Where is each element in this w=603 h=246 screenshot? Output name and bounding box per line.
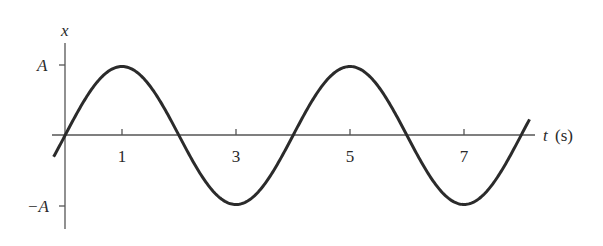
x-tick-label-7: 7 — [460, 147, 469, 166]
sine-chart: x A −A 1 3 5 7 t (s) — [0, 0, 603, 246]
x-axis-label: t (s) — [543, 126, 573, 145]
x-tick-label-1: 1 — [118, 147, 127, 166]
x-tick-label-5: 5 — [346, 147, 355, 166]
y-tick-label-a: A — [36, 56, 48, 75]
x-tick-label-3: 3 — [232, 147, 241, 166]
y-axis-label: x — [60, 21, 69, 40]
x-axis-unit: (s) — [555, 126, 573, 145]
y-tick-label-neg-a: −A — [27, 197, 49, 216]
x-axis-var: t — [543, 126, 549, 145]
